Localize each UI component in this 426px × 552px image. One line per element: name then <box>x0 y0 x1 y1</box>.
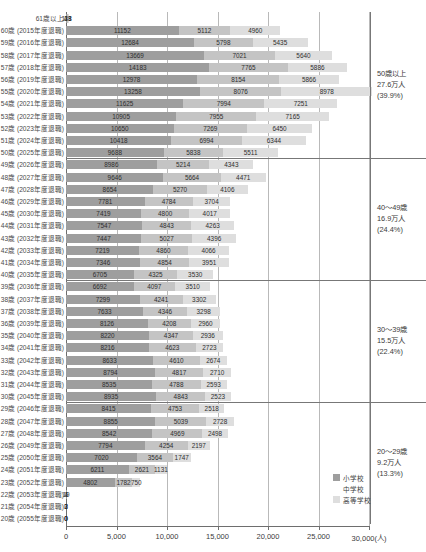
bar-value-label: 5640 <box>296 49 310 62</box>
y-axis-label: 57歳 (2018年度退職) <box>0 61 64 74</box>
y-axis-label: 52歳 (2023年度退職) <box>0 122 64 135</box>
group-divider-line-1 <box>370 12 371 158</box>
bar-value-label: 4343 <box>224 158 238 171</box>
chart-row: 20歳 (2055年度退職)000 <box>0 512 426 525</box>
chart-row: 49歳 (2026年度退職)898652144343 <box>0 158 426 171</box>
legend-item-highschool[interactable]: 高等学校 <box>333 494 389 505</box>
x-tick-mark-5000 <box>117 526 118 530</box>
x-tick-label-5000: 5,000 <box>107 532 126 541</box>
bar-value-label: 8633 <box>102 354 116 367</box>
chart-row: 57歳 (2018年度退職)1418377655886 <box>0 61 426 74</box>
y-axis-label: 43歳 (2032年度退職) <box>0 232 64 245</box>
bar-value-label: 4788 <box>169 378 183 391</box>
bar-value-label: 8216 <box>100 341 114 354</box>
bar-value-label: 9688 <box>108 146 122 159</box>
bar-value-label: 5435 <box>273 36 287 49</box>
bar-value-label: 7346 <box>96 256 110 269</box>
bar-value-label: 7419 <box>96 207 110 220</box>
chart-row: 41歳 (2034年度退職)734648543951 <box>0 256 426 269</box>
bar-value-label: 4396 <box>207 232 221 245</box>
chart-row: 34歳 (2041年度退職)821646232723 <box>0 341 426 354</box>
bar-value-label: 5511 <box>244 146 258 159</box>
x-tick-mark-0 <box>66 526 67 530</box>
bar-value-label: 8415 <box>101 402 115 415</box>
chart-row: 33歳 (2042年度退職)863346102674 <box>0 354 426 367</box>
bar-value-label: 0 <box>64 500 68 513</box>
bar-value-label: 4241 <box>154 293 168 306</box>
bar-value-label: 4610 <box>169 354 183 367</box>
bar-value-label: 6344 <box>267 134 281 147</box>
bar-value-label: 6994 <box>199 134 213 147</box>
bar-value-label: 4800 <box>158 207 172 220</box>
x-tick-label-25000: 25,000 <box>307 532 330 541</box>
bar-value-label: 5027 <box>159 232 173 245</box>
bar-value-label: 7447 <box>96 232 110 245</box>
group-separator-1 <box>66 158 426 159</box>
bar-value-label: 4854 <box>158 256 172 269</box>
bar-value-label: 8986 <box>104 158 118 171</box>
bar-value-label: 0 <box>64 512 68 525</box>
bar-value-label: 7781 <box>98 195 112 208</box>
bar-value-label: 5798 <box>216 36 230 49</box>
x-tick-mark-15000 <box>218 526 219 530</box>
bar-value-label: 2197 <box>192 439 206 452</box>
chart-row: 58歳 (2017年度退職)1366970215640 <box>0 49 426 62</box>
bar-value-label: 5866 <box>302 73 316 86</box>
bar-value-label: 3510 <box>186 280 200 293</box>
chart-row: 45歳 (2030年度退職)741948004017 <box>0 207 426 220</box>
bar-value-label: 11625 <box>116 97 133 110</box>
x-tick-mark-20000 <box>268 526 269 530</box>
bar-value-label: 4843 <box>174 390 188 403</box>
legend-swatch-icon-juniorhigh <box>333 485 340 492</box>
y-axis-label: 46歳 (2029年度退職) <box>0 195 64 208</box>
chart-row: 53歳 (2022年度退職)1090579557165 <box>0 110 426 123</box>
group-summary-count: 27.6万人 <box>377 79 426 90</box>
bar-value-label: 13258 <box>124 85 142 98</box>
bar-value-label: 3298 <box>197 305 211 318</box>
bar-value-label: 4817 <box>172 366 186 379</box>
bar-value-label: 12684 <box>121 36 139 49</box>
chart-row: 31歳 (2044年度退職)853547882593 <box>0 378 426 391</box>
y-axis-label: 39歳 (2036年度退職) <box>0 280 64 293</box>
bar-value-label: 7994 <box>217 97 231 110</box>
legend-item-juniorhigh[interactable]: 中学校 <box>333 483 389 494</box>
bar-value-label: 7633 <box>97 305 111 318</box>
chart-row: 40歳 (2035年度退職)670543253530 <box>0 268 426 281</box>
group-summary-percent: (22.4%) <box>377 346 426 357</box>
chart-row: 35歳 (2040年度退職)822043472936 <box>0 329 426 342</box>
chart-row: 42歳 (2033年度退職)721948604066 <box>0 244 426 257</box>
bar-value-label: 8978 <box>320 85 334 98</box>
bar-value-label: 8542 <box>102 427 116 440</box>
bar-value-label: 2498 <box>208 427 222 440</box>
y-axis-label: 42歳 (2033年度退職) <box>0 244 64 257</box>
y-axis-label: 31歳 (2044年度退職) <box>0 378 64 391</box>
chart-row: 52歳 (2023年度退職)1065072696450 <box>0 122 426 135</box>
legend-item-elementary[interactable]: 小学校 <box>333 472 389 483</box>
chart-row: 43歳 (2032年度退職)744750274396 <box>0 232 426 245</box>
bar-value-label: 7269 <box>203 122 217 135</box>
y-axis-label: 38歳 (2037年度退職) <box>0 293 64 306</box>
y-axis-label: 24歳 (2051年度退職) <box>0 463 64 476</box>
legend-label-highschool: 高等学校 <box>343 495 371 505</box>
x-tick-mark-30000 <box>369 526 370 530</box>
legend: 小学校 中学校 高等学校 <box>333 472 389 505</box>
bar-value-label: 8654 <box>103 183 117 196</box>
chart-row: 59歳 (2016年度退職)1268457985435 <box>0 36 426 49</box>
chart-row: 48歳 (2027年度退職)964656644471 <box>0 171 426 184</box>
group-summary-percent: (39.9%) <box>377 90 426 101</box>
bar-value-label: 7165 <box>286 110 300 123</box>
bar-value-label: 7299 <box>96 293 110 306</box>
bar-value-label: 4623 <box>165 341 179 354</box>
y-axis-label: 37歳 (2038年度退職) <box>0 305 64 318</box>
bar-value-label: 1747 <box>175 451 189 464</box>
y-axis-label: 51歳 (2024年度退職) <box>0 134 64 147</box>
chart-row: 38歳 (2037年度退職)729942413302 <box>0 293 426 306</box>
bar-value-label: 2674 <box>206 354 220 367</box>
y-axis-label: 27歳 (2048年度退職) <box>0 427 64 440</box>
y-axis-label: 44歳 (2031年度退職) <box>0 219 64 232</box>
bar-value-label: 4346 <box>158 305 172 318</box>
y-axis-label: 23歳 (2052年度退職) <box>0 476 64 489</box>
bar-value-label: 8855 <box>104 415 118 428</box>
bar-value-label: 4471 <box>236 171 250 184</box>
bar-value-label: 5270 <box>173 183 187 196</box>
